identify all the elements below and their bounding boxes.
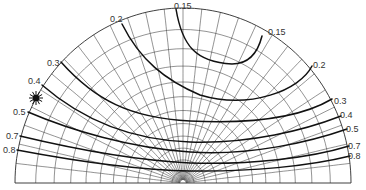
isoline-label: 0.5 — [346, 124, 359, 134]
sun-ray — [30, 95, 33, 97]
isoline-label: 0.3 — [334, 96, 347, 106]
sun-ray — [38, 101, 40, 104]
sun-core — [33, 95, 40, 102]
sun-ray — [38, 92, 40, 95]
isoline-label: 0.5 — [13, 107, 26, 117]
azimuth-meridian — [186, 90, 326, 181]
azimuth-meridian — [41, 90, 181, 181]
isoline-0.15 — [176, 9, 262, 64]
isoline-label: 0.4 — [28, 76, 41, 86]
azimuth-meridian — [184, 25, 256, 180]
sun-ray — [39, 95, 42, 97]
isoline-label: 0.7 — [6, 131, 19, 141]
isoline-label: 0.7 — [348, 141, 361, 151]
sun-ray — [33, 92, 35, 95]
sun-icon — [29, 91, 43, 105]
azimuth-meridian — [185, 35, 273, 181]
isoline-label: 0.2 — [110, 14, 123, 24]
azimuth-meridian — [110, 25, 182, 180]
azimuth-meridian — [64, 59, 181, 181]
isoline-0.3 — [61, 62, 332, 122]
isoline-0.5 — [28, 112, 347, 153]
isoline-label: 0.15 — [174, 1, 192, 11]
isoline-label: 0.8 — [348, 151, 361, 161]
isoline-label: 0.2 — [313, 60, 326, 70]
azimuth-meridian — [78, 46, 181, 180]
sky-luminance-diagram: 0.150.150.20.20.30.30.40.40.50.50.70.70.… — [0, 0, 366, 190]
isoline-label: 0.3 — [47, 58, 60, 68]
azimuth-meridian — [146, 12, 183, 180]
isoline-label: 0.8 — [3, 145, 16, 155]
sun-ray — [39, 100, 42, 102]
isoline-label: 0.4 — [340, 110, 353, 120]
isoline-0.8 — [17, 150, 350, 171]
isoline-label: 0.15 — [268, 27, 286, 37]
sun-ray — [30, 100, 33, 102]
